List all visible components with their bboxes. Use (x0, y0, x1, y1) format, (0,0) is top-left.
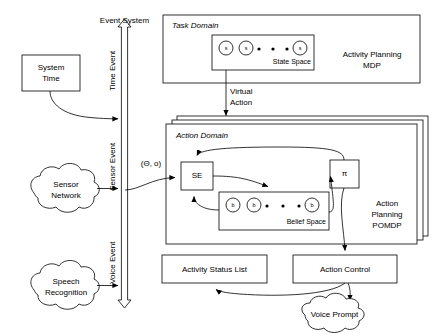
speech-recognition-label-line2: Recognition (29, 288, 103, 297)
state-space-label: State Space (255, 58, 311, 66)
sensor-network-label-line1: Sensor (36, 180, 96, 189)
virtual-action-label-line1: Virtual (230, 87, 276, 96)
belief-node-label: b (247, 202, 261, 208)
voice-event-label: Voice Event (108, 232, 117, 294)
belief-node-label: b (226, 202, 240, 208)
event-system-label: Event System (72, 16, 177, 25)
state-ellipsis-dot (257, 47, 260, 50)
time-event-label: Time Event (108, 41, 117, 101)
state-ellipsis-dot (285, 47, 288, 50)
voice-prompt-label: Voice Prompt (302, 310, 367, 319)
policy-label: π (330, 169, 359, 178)
belief-ellipsis-dot (265, 204, 268, 207)
system-time-label-line1: System (22, 63, 80, 72)
observation-label: (Θ, o) (131, 159, 171, 168)
belief-space-label: Belief Space (266, 218, 326, 226)
activity-planning-label-line2: MDP (330, 61, 414, 70)
system-time-box (22, 55, 80, 91)
speech-recognition-label-line1: Speech (33, 277, 99, 286)
belief-node-label: b (305, 202, 319, 208)
state-estimator-label: SE (181, 171, 213, 180)
action-planning-label-line1: Action (361, 199, 413, 208)
action-planning-label-line2: Planning (361, 210, 413, 219)
action-planning-label-line3: POMDP (361, 221, 413, 230)
action-control-to-voice-arrow (348, 283, 350, 301)
state-ellipsis-dot (271, 47, 274, 50)
sensor-event-label: Sensor Event (108, 134, 117, 200)
activity-status-list-label: Activity Status List (162, 265, 267, 274)
belief-ellipsis-dot (297, 204, 300, 207)
state-node-label: s (293, 45, 307, 51)
state-node-label: s (219, 45, 233, 51)
belief-ellipsis-dot (281, 204, 284, 207)
virtual-action-label-line2: Action (230, 98, 276, 107)
state-node-label: s (239, 45, 253, 51)
task-domain-title: Task Domain (172, 21, 252, 30)
activity-planning-label-line1: Activity Planning (330, 50, 414, 59)
event-system-bus (118, 19, 131, 308)
architecture-diagram: Event System Time Event Sensor Event Voi… (0, 0, 434, 336)
system-time-label-line2: Time (22, 74, 80, 83)
action-domain-title: Action Domain (176, 131, 260, 140)
action-control-label: Action Control (293, 265, 397, 274)
sensor-network-label-line2: Network (36, 191, 96, 200)
action-control-to-status-arrow (216, 283, 345, 295)
